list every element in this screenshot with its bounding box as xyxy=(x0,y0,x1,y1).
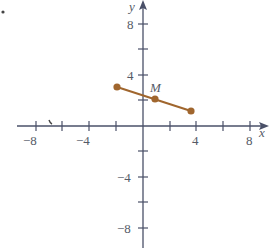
coordinate-plane: −8 −4 4 8 x 8 4 −4 −8 y M xyxy=(0,0,269,248)
x-axis-label: x xyxy=(258,125,265,140)
stray-mark xyxy=(1,10,4,13)
y-tick-label: 8 xyxy=(127,17,134,32)
y-tick-label: −8 xyxy=(117,221,131,236)
x-tick-label: −4 xyxy=(76,133,90,148)
endpoint-marker xyxy=(113,83,120,90)
midpoint-label: M xyxy=(149,80,162,95)
x-tick-label: −8 xyxy=(23,133,37,148)
x-tick-label: 8 xyxy=(246,133,253,148)
y-axis xyxy=(138,0,148,248)
midpoint-marker xyxy=(151,95,158,102)
endpoint-marker xyxy=(187,107,194,114)
y-tick-label: −4 xyxy=(117,170,131,185)
x-tick-label: 4 xyxy=(192,133,199,148)
y-tick-label: 4 xyxy=(127,68,134,83)
y-axis-label: y xyxy=(127,0,135,14)
stray-mark xyxy=(49,120,52,124)
